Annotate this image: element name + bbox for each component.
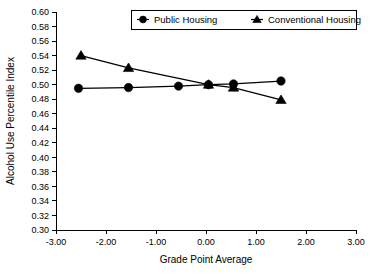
x-tick-label: 1.00 [247,237,265,247]
x-axis-title: Grade Point Average [160,254,253,265]
x-tick-label: -2.00 [96,237,117,247]
data-point-circle [277,77,285,85]
y-tick-label: 0.42 [31,138,49,148]
y-tick-label: 0.44 [31,123,49,133]
y-tick-label: 0.52 [31,65,49,75]
y-tick-label: 0.54 [31,51,49,61]
x-tick-label: 3.00 [347,237,365,247]
x-tick-label: 2.00 [297,237,315,247]
legend: Public HousingConventional Housing [131,10,361,29]
y-tick-label: 0.48 [31,94,49,104]
y-tick-label: 0.34 [31,196,49,206]
legend-label: Public Housing [154,14,217,25]
y-axis-title: Alcohol Use Percentile Index [5,57,16,185]
chart-container: 0.600.580.560.540.520.500.480.460.440.42… [0,0,373,277]
legend-label: Conventional Housing [268,14,361,25]
y-tick-label: 0.60 [31,7,49,17]
y-tick-label: 0.58 [31,22,49,32]
y-tick-label: 0.46 [31,109,49,119]
series-line [81,56,281,100]
data-point-circle [74,84,82,92]
x-tick-label: -3.00 [46,237,67,247]
series-conventional-housing [76,51,286,104]
y-tick-label: 0.32 [31,211,49,221]
y-tick-label: 0.50 [31,80,49,90]
data-point-triangle [76,51,86,60]
y-tick-label: 0.30 [31,225,49,235]
data-point-circle [174,82,182,90]
x-tick-label: 0.00 [197,237,215,247]
data-point-circle [140,16,147,23]
y-tick-label: 0.36 [31,182,49,192]
y-tick-label: 0.40 [31,153,49,163]
line-chart: 0.600.580.560.540.520.500.480.460.440.42… [0,0,373,277]
data-point-circle [124,83,132,91]
y-tick-label: 0.38 [31,167,49,177]
x-tick-label: -1.00 [146,237,167,247]
y-tick-label: 0.56 [31,36,49,46]
